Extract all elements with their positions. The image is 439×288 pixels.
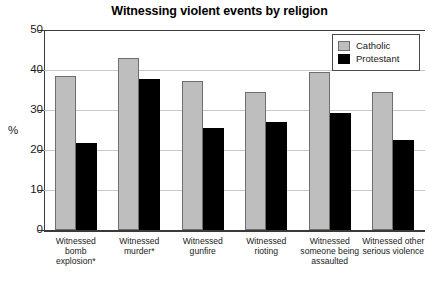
bar-catholic <box>118 58 139 230</box>
x-axis-category-label: Witnessed someone being assaulted <box>298 236 362 267</box>
bar-catholic <box>55 76 76 230</box>
y-axis-tick-label: 50 <box>0 24 43 36</box>
bar-protestant <box>203 128 224 230</box>
legend-item-catholic: Catholic <box>338 40 414 52</box>
bar-protestant <box>76 143 97 230</box>
bar-catholic <box>182 81 203 230</box>
bar-catholic <box>372 92 393 230</box>
bar-protestant <box>139 79 160 230</box>
chart-title: Witnessing violent events by religion <box>0 4 439 18</box>
x-axis-category-label: Witnessed murder* <box>108 236 172 256</box>
y-axis-tick-label: 30 <box>0 104 43 116</box>
x-axis-category-label: Witnessed rioting <box>235 236 299 256</box>
y-axis-tick-label: 40 <box>0 64 43 76</box>
y-axis-tick-label: 10 <box>0 184 43 196</box>
bar-protestant <box>330 113 351 230</box>
legend-label-protestant: Protestant <box>356 54 399 64</box>
legend: Catholic Protestant <box>332 34 420 71</box>
bar-protestant <box>393 140 414 230</box>
legend-item-protestant: Protestant <box>338 53 414 65</box>
legend-label-catholic: Catholic <box>356 41 390 51</box>
legend-swatch-protestant <box>338 54 350 64</box>
bar-catholic <box>245 92 266 230</box>
x-axis-category-label: Witnessed bomb explosion* <box>44 236 108 267</box>
y-axis-tick-label: 0 <box>0 224 43 236</box>
bar-protestant <box>266 122 287 230</box>
legend-swatch-catholic <box>338 41 350 51</box>
bar-chart: Witnessing violent events by religion 01… <box>0 0 439 288</box>
y-axis-title: % <box>8 124 18 136</box>
y-axis-tick-label: 20 <box>0 144 43 156</box>
x-axis-category-label: Witnessed gunfire <box>171 236 235 256</box>
x-axis-line <box>44 230 425 232</box>
bar-catholic <box>309 72 330 230</box>
x-axis-category-label: Witnessed other serious violence <box>362 236 426 256</box>
